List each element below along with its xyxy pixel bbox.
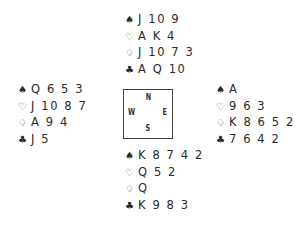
north-hearts: A K 4: [138, 29, 176, 43]
south-hearts: Q 5 2: [138, 165, 177, 179]
north-diamonds-row: ♢J 10 7 3: [125, 44, 194, 61]
south-hearts-row: ♡Q 5 2: [125, 164, 204, 181]
compass-box: N W E S: [123, 89, 173, 139]
west-hearts-row: ♡J 10 8 7: [18, 98, 87, 115]
south-diamonds: Q: [138, 181, 149, 195]
heart-icon: ♡: [18, 99, 31, 116]
south-spades: K 8 7 4 2: [138, 148, 204, 162]
spade-icon: ♠: [216, 82, 229, 99]
diamond-icon: ♢: [216, 115, 229, 132]
club-icon: ♣: [18, 132, 31, 149]
north-spades: J 10 9: [138, 12, 180, 26]
east-clubs: 7 6 4 2: [229, 132, 280, 146]
compass-east-label: E: [163, 107, 167, 117]
north-spades-row: ♠J 10 9: [125, 11, 194, 28]
east-hearts: 9 6 3: [229, 99, 266, 113]
south-diamonds-row: ♢Q: [125, 180, 204, 197]
north-hearts-row: ♡A K 4: [125, 28, 194, 45]
club-icon: ♣: [216, 132, 229, 149]
heart-icon: ♡: [125, 165, 138, 182]
south-clubs-row: ♣K 9 8 3: [125, 197, 204, 214]
west-hearts: J 10 8 7: [31, 99, 87, 113]
spade-icon: ♠: [18, 82, 31, 99]
club-icon: ♣: [125, 62, 138, 79]
north-diamonds: J 10 7 3: [138, 45, 194, 59]
north-clubs: A Q 10: [138, 62, 186, 76]
compass-west-label: W: [128, 107, 135, 117]
west-spades: Q 6 5 3: [31, 82, 84, 96]
north-clubs-row: ♣A Q 10: [125, 61, 194, 78]
south-spades-row: ♠K 8 7 4 2: [125, 147, 204, 164]
heart-icon: ♡: [125, 29, 138, 46]
west-clubs-row: ♣J 5: [18, 131, 87, 148]
west-diamonds-row: ♢A 9 4: [18, 114, 87, 131]
west-clubs: J 5: [31, 132, 50, 146]
north-hand: ♠J 10 9 ♡A K 4 ♢J 10 7 3 ♣A Q 10: [125, 11, 194, 78]
east-clubs-row: ♣7 6 4 2: [216, 131, 295, 148]
spade-icon: ♠: [125, 148, 138, 165]
south-hand: ♠K 8 7 4 2 ♡Q 5 2 ♢Q ♣K 9 8 3: [125, 147, 204, 214]
east-spades-row: ♠A: [216, 81, 295, 98]
west-spades-row: ♠Q 6 5 3: [18, 81, 87, 98]
east-spades: A: [229, 82, 238, 96]
west-hand: ♠Q 6 5 3 ♡J 10 8 7 ♢A 9 4 ♣J 5: [18, 81, 87, 148]
compass-north-label: N: [146, 92, 151, 102]
diamond-icon: ♢: [18, 115, 31, 132]
diamond-icon: ♢: [125, 181, 138, 198]
spade-icon: ♠: [125, 12, 138, 29]
east-diamonds-row: ♢K 8 6 5 2: [216, 114, 295, 131]
heart-icon: ♡: [216, 99, 229, 116]
east-hearts-row: ♡9 6 3: [216, 98, 295, 115]
club-icon: ♣: [125, 198, 138, 215]
west-diamonds: A 9 4: [31, 115, 69, 129]
diamond-icon: ♢: [125, 45, 138, 62]
south-clubs: K 9 8 3: [138, 198, 190, 212]
east-hand: ♠A ♡9 6 3 ♢K 8 6 5 2 ♣7 6 4 2: [216, 81, 295, 148]
east-diamonds: K 8 6 5 2: [229, 115, 295, 129]
compass-south-label: S: [146, 123, 151, 133]
